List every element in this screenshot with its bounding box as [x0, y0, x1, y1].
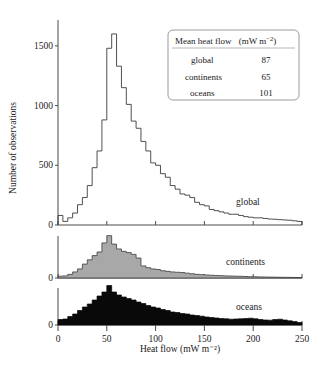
legend-row-label-global: global: [191, 55, 214, 65]
series-label-global: global: [236, 197, 260, 207]
figure-heat-flow-histograms: Number of observations 050010001500 0 0 …: [0, 0, 322, 372]
legend-row-value-oceans: 101: [259, 88, 273, 98]
legend-row-value-global: 87: [262, 55, 272, 65]
legend-title-unit: (mW m: [239, 36, 267, 46]
legend-panel: Mean heat flow (mW m−2) global 87 contin…: [168, 30, 299, 100]
x-tick-label-200: 200: [246, 334, 261, 344]
y-tick-label-global-500: 500: [39, 160, 54, 170]
legend-title: Mean heat flow (mW m−2): [175, 35, 276, 46]
legend-row-label-continents: continents: [185, 72, 222, 82]
y-tick-label-global-1500: 1500: [34, 41, 53, 51]
x-tick-label-150: 150: [197, 334, 212, 344]
x-axis-title-text: Heat flow (mW m⁻²): [140, 344, 220, 355]
continents-histogram: [58, 236, 302, 278]
x-axis-title: Heat flow (mW m⁻²): [140, 344, 220, 355]
oceans-histogram: [58, 286, 302, 326]
legend-title-unit-end: ): [273, 36, 276, 46]
legend-row-label-oceans: oceans: [190, 88, 215, 98]
y-axis-title: Number of observations: [8, 102, 18, 194]
histogram-chart: Number of observations 050010001500 0 0 …: [0, 0, 322, 372]
x-tick-label-100: 100: [148, 334, 163, 344]
series-label-continents: continents: [226, 257, 265, 267]
x-tick-label-250: 250: [295, 334, 310, 344]
legend-row-value-continents: 65: [262, 72, 272, 82]
histogram-continents: [58, 236, 302, 278]
y-tick-label-global-0: 0: [48, 220, 53, 230]
histogram-oceans: [58, 286, 302, 326]
legend-title-unit-sup: −2: [266, 35, 273, 42]
x-tick-label-0: 0: [56, 334, 61, 344]
x-tick-label-50: 50: [102, 334, 112, 344]
y-tick-label-oceans-0: 0: [48, 320, 53, 330]
legend-title-main: Mean heat flow: [175, 36, 232, 46]
y-tick-label-continents-0: 0: [48, 273, 53, 283]
series-label-oceans: oceans: [236, 302, 262, 312]
x-axis: 050100150200250: [56, 325, 310, 344]
y-tick-label-global-1000: 1000: [34, 101, 53, 111]
